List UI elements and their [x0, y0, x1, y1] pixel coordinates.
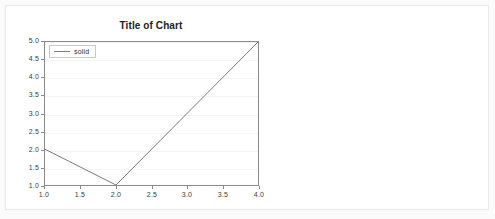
y-tick-mark: [41, 168, 44, 169]
x-tick-mark: [187, 186, 188, 189]
x-tick-mark: [259, 186, 260, 189]
x-tick-label: 1.0: [32, 191, 56, 198]
x-tick-label: 3.5: [211, 191, 235, 198]
x-tick-label: 3.0: [175, 191, 199, 198]
x-tick-mark: [80, 186, 81, 189]
chart-card: Title of Chart solid 1.01.52.02.53.03.54…: [5, 5, 489, 210]
y-tick-mark: [41, 132, 44, 133]
page-background: Title of Chart solid 1.01.52.02.53.03.54…: [0, 0, 495, 219]
y-tick-label: 2.0: [8, 146, 39, 153]
y-tick-label: 4.5: [8, 55, 39, 62]
data-series-layer: [45, 42, 258, 185]
chart-figure: Title of Chart solid 1.01.52.02.53.03.54…: [6, 6, 296, 211]
y-tick-mark: [41, 150, 44, 151]
y-tick-label: 1.5: [8, 164, 39, 171]
y-tick-label: 5.0: [8, 37, 39, 44]
x-tick-label: 2.0: [104, 191, 128, 198]
y-tick-label: 4.0: [8, 73, 39, 80]
y-tick-mark: [41, 59, 44, 60]
y-tick-mark: [41, 77, 44, 78]
y-tick-mark: [41, 114, 44, 115]
x-tick-label: 4.0: [247, 191, 271, 198]
x-tick-mark: [116, 186, 117, 189]
chart-legend: solid: [49, 45, 96, 58]
x-tick-label: 2.5: [140, 191, 164, 198]
x-tick-label: 1.5: [68, 191, 92, 198]
plot-area: solid: [44, 41, 259, 186]
y-tick-label: 3.5: [8, 91, 39, 98]
y-tick-label: 1.0: [8, 182, 39, 189]
x-tick-mark: [152, 186, 153, 189]
legend-line-swatch: [54, 51, 70, 52]
y-tick-label: 3.0: [8, 110, 39, 117]
line-series-solid: [45, 42, 258, 185]
chart-title: Title of Chart: [6, 20, 296, 31]
legend-label-solid: solid: [74, 48, 89, 55]
x-tick-mark: [223, 186, 224, 189]
y-tick-mark: [41, 41, 44, 42]
y-tick-label: 2.5: [8, 128, 39, 135]
y-tick-mark: [41, 95, 44, 96]
x-tick-mark: [44, 186, 45, 189]
